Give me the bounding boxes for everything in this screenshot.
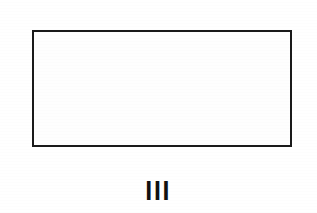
figure-rectangle-interior	[34, 32, 290, 145]
figure-caption: III	[0, 181, 317, 202]
figure-rectangle-outline	[32, 30, 292, 147]
figure-caption-label: III	[145, 181, 171, 202]
figure-page: III	[0, 0, 317, 213]
